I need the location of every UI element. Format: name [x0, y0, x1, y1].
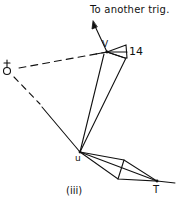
line-past-t	[157, 181, 175, 183]
station-v-label: V	[102, 40, 108, 49]
line-14-to-u	[80, 58, 126, 152]
arrow-label: To another trig.	[90, 5, 170, 15]
survey-diagram	[0, 0, 181, 199]
quad-u-t-cross	[118, 160, 124, 179]
station-u-label: u	[75, 154, 81, 163]
station-v-dot	[106, 51, 109, 54]
line-v-to-u	[80, 54, 104, 152]
station-t-label: T	[153, 185, 159, 195]
station-t-dot	[156, 180, 159, 183]
line-to-u	[42, 107, 80, 152]
dashed-sight-line-to-v	[19, 52, 107, 68]
dashed-sight-line-down	[14, 77, 40, 104]
sight-line-v	[96, 52, 107, 54]
station-14-label: 14	[129, 46, 143, 57]
quad-14-side	[107, 52, 125, 58]
figure-caption: (iii)	[66, 186, 82, 196]
station-circle-icon	[4, 68, 11, 75]
